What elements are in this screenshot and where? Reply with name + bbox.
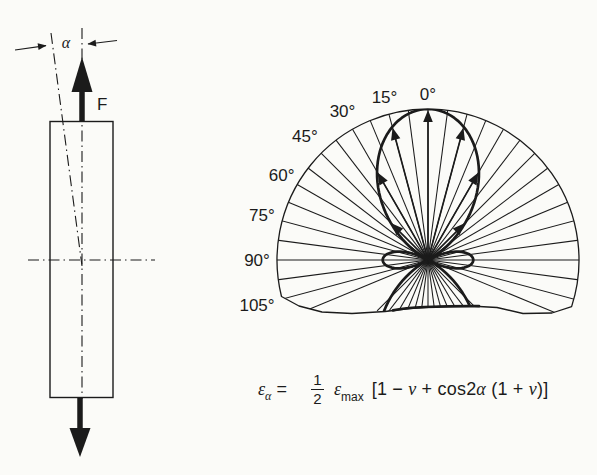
fan-ray xyxy=(428,219,582,260)
strain-arrow-head xyxy=(468,173,478,186)
angle-label: 15° xyxy=(372,88,398,107)
strain-arrow-head xyxy=(391,128,400,141)
alpha-angle-label: α xyxy=(62,34,71,51)
equals-sign: = xyxy=(276,379,287,400)
formula-bracket: [1 − ν + cos2α (1 + ν)] xyxy=(372,379,549,400)
angle-label: 45° xyxy=(292,127,318,146)
force-label: F xyxy=(97,95,107,114)
strain-vector-arrows xyxy=(378,110,479,260)
angle-label: 90° xyxy=(244,251,270,270)
fan-ray xyxy=(274,260,428,301)
force-arrow-up-head xyxy=(72,57,93,92)
fan-ray xyxy=(407,102,437,331)
fan-ray xyxy=(367,113,455,326)
bar-diagram: α F xyxy=(15,28,155,457)
angle-label: 75° xyxy=(249,206,275,225)
tilted-axis-line xyxy=(51,33,82,266)
angle-label: 105° xyxy=(239,296,274,315)
strain-arrow-shaft xyxy=(428,137,461,260)
strain-curve-bottom-edge xyxy=(393,306,479,310)
strain-arrow-shaft xyxy=(395,137,428,260)
angle-label: 60° xyxy=(269,166,295,185)
epsilon-max-symbol: ε xyxy=(334,379,341,400)
angle-label: 0° xyxy=(420,85,436,104)
formula-coefficient: εmax xyxy=(334,379,364,400)
figure-page: α F 0°15°30°45°60°75°90°105° εα = 1 2 εm… xyxy=(0,0,597,475)
fan-ray xyxy=(274,219,428,260)
fan-ray xyxy=(400,113,488,326)
fan-ray xyxy=(428,260,582,301)
strain-arrow-head xyxy=(378,173,388,186)
fraction-denominator: 2 xyxy=(313,391,321,407)
angle-label: 30° xyxy=(330,102,356,121)
one-half-fraction: 1 2 xyxy=(311,372,324,407)
alpha-subscript: α xyxy=(265,389,271,404)
alpha-symbol: α xyxy=(476,379,486,399)
epsilon-symbol: ε xyxy=(258,379,265,400)
strain-arrow-head xyxy=(423,110,433,122)
nu-symbol: ν xyxy=(529,379,537,399)
strain-arrow-head xyxy=(456,128,465,141)
angle-dim-arrow-right xyxy=(88,41,117,45)
fan-ray xyxy=(419,102,449,331)
polar-plot: 0°15°30°45°60°75°90°105° xyxy=(239,85,587,412)
fraction-numerator: 1 xyxy=(313,372,321,388)
max-subscript: max xyxy=(341,390,364,404)
angle-dim-arrow-left xyxy=(15,46,46,50)
formula-lhs: εα xyxy=(258,379,271,400)
fan-ray xyxy=(290,181,428,261)
strain-formula: εα = 1 2 εmax [1 − ν + cos2α (1 + ν)] xyxy=(258,372,548,407)
fan-ray xyxy=(428,181,566,261)
force-arrow-down-head xyxy=(70,428,91,457)
